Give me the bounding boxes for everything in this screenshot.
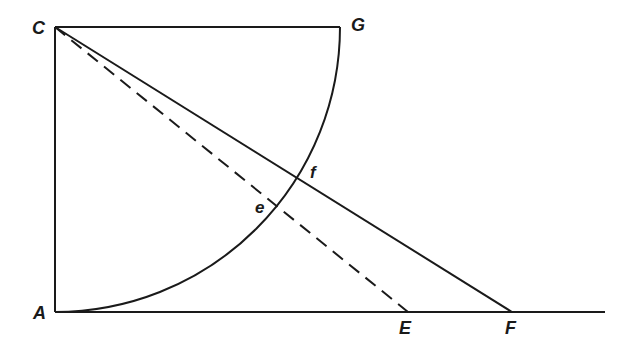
- point-label-c: C: [32, 19, 45, 37]
- point-label-f: F: [505, 319, 516, 337]
- arc-ag: [55, 27, 340, 312]
- point-label-e-intersection: e: [255, 199, 264, 216]
- point-label-e: E: [399, 319, 411, 337]
- point-label-g: G: [351, 16, 365, 34]
- point-label-f-intersection: f: [310, 164, 316, 181]
- segment-cf: [55, 27, 512, 312]
- segment-ce-dashed: [55, 27, 408, 312]
- point-label-a: A: [33, 304, 46, 322]
- geometry-diagram: [0, 0, 635, 344]
